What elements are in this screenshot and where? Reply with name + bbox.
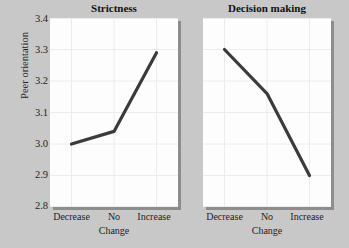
chart-figure: Peer orientation 3.4 3.3 3.2 3.1 3.0 2.9…: [0, 0, 349, 248]
x-tick-label-decrease: Decrease: [206, 211, 243, 222]
x-tick-label-increase: Increase: [137, 211, 170, 222]
y-tick-label-3-3: 3.3: [20, 45, 48, 55]
x-axis-sublabel-strictness: Change: [50, 225, 178, 241]
plot-area-strictness: [50, 18, 178, 207]
panel-title-decision-making: Decision making: [203, 2, 331, 14]
x-tick-label-no: No: [108, 211, 120, 222]
y-tick-label-2-9: 2.9: [20, 170, 48, 180]
x-axis-sublabel-decision-making: Change: [203, 225, 331, 241]
line-plot-strictness: [50, 18, 178, 207]
y-tick-label-3-4: 3.4: [20, 14, 48, 24]
plot-area-decision-making: [203, 18, 331, 207]
panel-decision-making: Decision making: [203, 18, 331, 207]
y-tick-label-3-0: 3.0: [20, 139, 48, 149]
x-tick-label-increase: Increase: [290, 211, 323, 222]
x-tick-label-decrease: Decrease: [53, 211, 90, 222]
y-tick-label-2-8: 2.8: [20, 201, 48, 211]
panel-title-strictness: Strictness: [50, 2, 178, 14]
x-tick-label-no: No: [261, 211, 273, 222]
y-tick-label-3-2: 3.2: [20, 76, 48, 86]
line-plot-decision-making: [203, 18, 331, 207]
y-tick-label-3-1: 3.1: [20, 108, 48, 118]
panel-strictness: Strictness: [50, 18, 178, 207]
